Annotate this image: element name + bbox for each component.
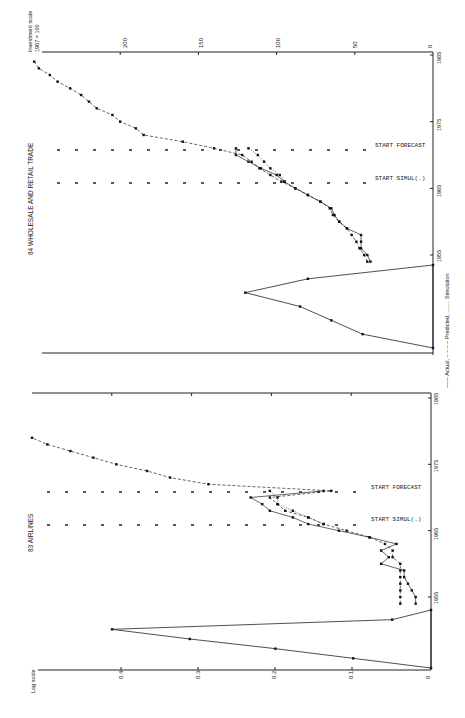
top-year-1975: 1975 xyxy=(436,119,442,131)
legend: —— Actual, – – – – Predicted, ........ S… xyxy=(444,273,450,388)
data-point xyxy=(294,187,296,189)
data-point xyxy=(399,576,401,578)
bottom-year-1985: 1985 xyxy=(433,393,439,405)
top-start-forecast: START FORECAST xyxy=(375,142,426,149)
data-point xyxy=(399,602,401,604)
top-start-simul: START SIMUL(.) xyxy=(375,175,425,182)
lag-point xyxy=(352,657,354,659)
data-point xyxy=(115,463,117,465)
lag-point xyxy=(189,638,191,640)
data-point xyxy=(399,569,401,571)
data-point xyxy=(307,194,309,196)
data-point xyxy=(292,516,294,518)
bottom-lagtick-0.4: 0.4 xyxy=(118,670,124,679)
plot-layer xyxy=(31,52,434,670)
data-point xyxy=(69,450,71,452)
data-point xyxy=(307,523,309,525)
data-point xyxy=(329,207,331,209)
lag-point xyxy=(307,278,309,280)
data-point xyxy=(263,160,265,162)
data-point xyxy=(283,180,285,182)
data-point xyxy=(207,483,209,485)
data-point xyxy=(269,174,271,176)
data-point xyxy=(391,549,393,551)
data-point xyxy=(80,94,82,96)
data-point xyxy=(276,496,278,498)
data-point xyxy=(276,503,278,505)
data-point xyxy=(319,200,321,202)
data-point xyxy=(135,127,137,129)
data-point xyxy=(182,140,184,142)
data-point xyxy=(269,496,271,498)
data-point xyxy=(92,457,94,459)
bottom-year-1955: 1955 xyxy=(433,592,439,604)
data-point xyxy=(395,543,397,545)
data-point xyxy=(360,240,362,242)
series-predicted xyxy=(34,62,367,262)
top-ytick-200: 200 xyxy=(122,37,128,48)
data-point xyxy=(332,214,334,216)
data-point xyxy=(388,556,390,558)
data-point xyxy=(111,114,113,116)
bottom-lagtick-0.1: 0.1 xyxy=(348,670,354,679)
data-point xyxy=(146,470,148,472)
chart-svg: 84 WHOLESALE AND RETAIL TRADE Investment… xyxy=(0,0,465,718)
data-point xyxy=(261,503,263,505)
data-point xyxy=(399,589,401,591)
data-point xyxy=(269,167,271,169)
top-year-1965: 1965 xyxy=(436,185,442,197)
data-point xyxy=(247,160,249,162)
data-point xyxy=(250,160,252,162)
lag-point xyxy=(274,647,276,649)
data-point xyxy=(322,523,324,525)
series-predicted xyxy=(32,438,400,604)
data-point xyxy=(88,100,90,102)
lag-point xyxy=(244,291,246,293)
data-point xyxy=(414,602,416,604)
data-point xyxy=(249,496,251,498)
data-point xyxy=(360,234,362,236)
top-year-1955: 1955 xyxy=(436,250,442,262)
data-point xyxy=(399,583,401,585)
data-point xyxy=(284,510,286,512)
data-point xyxy=(307,516,309,518)
data-point xyxy=(269,490,271,492)
data-point xyxy=(380,563,382,565)
data-point xyxy=(56,80,58,82)
bottom-lag-axis-label: Lag scale xyxy=(30,669,36,693)
data-point xyxy=(355,240,357,242)
lag-point xyxy=(391,618,393,620)
data-point xyxy=(46,443,48,445)
data-point xyxy=(241,154,243,156)
data-point xyxy=(169,476,171,478)
data-point xyxy=(358,247,360,249)
data-point xyxy=(346,227,348,229)
data-point xyxy=(269,510,271,512)
data-point xyxy=(69,87,71,89)
lag-point xyxy=(299,305,301,307)
lag-distribution xyxy=(112,610,431,668)
data-point xyxy=(338,220,340,222)
data-point xyxy=(235,154,237,156)
top-ytick-150: 150 xyxy=(198,37,204,48)
data-point xyxy=(407,583,409,585)
data-point xyxy=(345,529,347,531)
data-point xyxy=(363,254,365,256)
data-point xyxy=(391,556,393,558)
data-point xyxy=(292,510,294,512)
data-point xyxy=(142,134,144,136)
data-point xyxy=(369,260,371,262)
figure: 84 WHOLESALE AND RETAIL TRADE Investment… xyxy=(0,0,465,718)
bottom-panel-title: 83 AIRLINES xyxy=(27,513,34,552)
top-ytick-50: 50 xyxy=(352,41,358,48)
bottom-lagtick-0.2: 0.2 xyxy=(271,670,277,679)
bottom-start-simul: START SIMUL(.) xyxy=(371,516,421,523)
data-point xyxy=(414,596,416,598)
data-point xyxy=(33,60,35,62)
data-point xyxy=(235,147,237,149)
top-yaxis-label-1: Investment scale xyxy=(27,11,33,52)
data-point xyxy=(280,180,282,182)
data-point xyxy=(380,549,382,551)
bottom-start-forecast: START FORECAST xyxy=(371,484,422,491)
data-point xyxy=(350,234,352,236)
